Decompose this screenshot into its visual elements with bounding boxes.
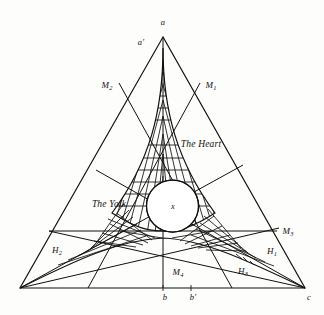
m2-base: M [101,80,109,90]
yolk-left-hatching [58,203,162,265]
region-heart-label: The Heart [181,140,222,150]
m3-sub: 3 [290,230,293,237]
h3-base: H [238,266,245,276]
m4-base: M [172,267,180,277]
point-m3-label: M3 [282,227,293,237]
h2-sub: 2 [59,249,62,256]
h2-base: H [52,245,59,255]
point-b-prime-label: b′ [190,293,197,302]
point-a-prime-label: a′ [138,38,145,47]
h3-sub: 3 [245,270,248,277]
m1-sub: 1 [213,84,216,91]
point-m1-label: M1 [205,81,216,91]
point-h3-label: H3 [238,267,248,277]
m2-sub: 2 [109,84,112,91]
point-h1-label: H1 [267,247,277,257]
point-h2-label: H2 [52,246,62,256]
m4-sub: 4 [180,271,183,278]
geometry-figure: a a′ M2 M1 The Heart The Yolk x M3 H2 H1… [0,0,324,315]
vertex-a-label: a [161,18,165,27]
point-m2-label: M2 [101,81,112,91]
point-b-label: b [163,293,167,302]
diagram-svg [0,0,324,315]
h1-sub: 1 [274,250,277,257]
point-x-label: x [171,202,175,211]
m1-base: M [205,80,213,90]
m3-base: M [282,226,290,236]
point-m4-label: M4 [172,268,183,278]
h1-base: H [267,246,274,256]
region-yolk-label: The Yolk [92,200,126,210]
vertex-c-label: c [307,293,311,302]
